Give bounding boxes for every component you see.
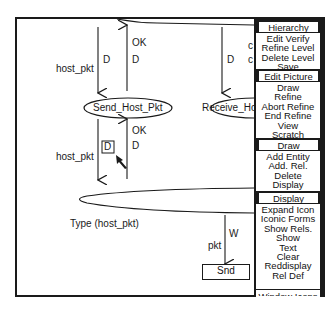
label-w: W [229, 229, 238, 239]
node-send-host-pkt[interactable]: Send_Host_Pkt [93, 103, 163, 113]
label-d-4: D [132, 141, 139, 151]
menu-group-display: Expand Icon Iconic Forms Show Rels. Show… [256, 204, 320, 289]
diagram-canvas[interactable]: host_pkt D OK D D c c Send_Host_Pkt Rece… [17, 19, 254, 295]
label-d-1: D [103, 55, 110, 65]
menu-header-display[interactable]: Display [259, 193, 318, 203]
diagram-window: host_pkt D OK D D c c Send_Host_Pkt Rece… [15, 17, 325, 297]
menu-group-hierarchy: Edit Verify Refine Level Delete Level Sa… [256, 33, 320, 69]
node-receive-host[interactable]: Receive_Hos [202, 103, 254, 113]
label-partial-c1: c [248, 41, 253, 51]
menu-item-display[interactable]: Display [256, 180, 320, 189]
label-pkt: pkt [208, 241, 221, 251]
label-ok-1: OK [132, 38, 146, 48]
label-d-2: D [132, 55, 139, 65]
menu-header-edit-picture[interactable]: Edit Picture [259, 71, 318, 81]
label-partial-c2: c [248, 55, 253, 65]
menu-group-draw: Add Entity Add. Rel. Delete Display [256, 151, 320, 191]
label-host-pkt-mid: host_pkt [56, 152, 94, 162]
menu-header-draw[interactable]: Draw [259, 140, 318, 150]
label-ok-2: OK [132, 126, 146, 136]
command-menu: Hierarchy Edit Verify Refine Level Delet… [254, 19, 323, 295]
menu-header-window-icons[interactable]: Window Icons [256, 290, 320, 297]
node-snd[interactable]: Snd [202, 264, 250, 280]
label-type-host-pkt: Type (host_pkt) [70, 219, 139, 229]
label-d-3: D [227, 55, 234, 65]
menu-item-rel-def[interactable]: Rel Def [256, 271, 320, 280]
menu-group-edit-picture: Draw Refine Abort Refine End Refine View… [256, 82, 320, 138]
label-host-pkt-top: host_pkt [56, 64, 94, 74]
menu-item-scratch[interactable]: Scratch [256, 130, 320, 139]
menu-header-hierarchy[interactable]: Hierarchy [259, 22, 318, 32]
node-d-box[interactable]: D [104, 142, 111, 152]
